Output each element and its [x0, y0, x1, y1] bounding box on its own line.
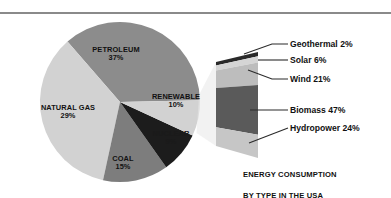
pie-label-petroleum: PETROLEUM 37%: [76, 46, 156, 63]
legend-item-biomass: Biomass 47%: [290, 106, 345, 115]
legend-item-solar: Solar 6%: [290, 56, 326, 65]
legend-label-solar: Solar 6%: [290, 55, 326, 65]
chart-title-line-2: BY TYPE IN THE USA: [243, 191, 337, 198]
chart-title: ENERGY CONSUMPTION BY TYPE IN THE USA: [243, 160, 337, 198]
legend-item-geothermal: Geothermal 2%: [290, 40, 353, 49]
pie-label-nuclear: NUCLEAR 9%: [144, 130, 198, 147]
pie-label-renewable: RENEWABLE 10%: [142, 93, 210, 110]
pie-label-petroleum-value: 37%: [76, 54, 156, 62]
leader-line-geothermal: [244, 44, 288, 54]
legend-label-biomass: Biomass 47%: [290, 105, 345, 115]
pie-label-renewable-value: 10%: [142, 101, 210, 109]
chart-canvas: PETROLEUM 37% NATURAL GAS 29% COAL 15% N…: [0, 0, 391, 198]
pie-label-nuclear-value: 9%: [144, 138, 198, 146]
pie-label-coal: COAL 15%: [95, 155, 151, 172]
pie-label-natural-gas-value: 29%: [27, 112, 109, 120]
pie-label-coal-value: 15%: [95, 163, 151, 171]
legend-label-geothermal: Geothermal 2%: [290, 39, 353, 49]
legend-label-hydropower: Hydropower 24%: [290, 123, 360, 133]
pie-label-natural-gas: NATURAL GAS 29%: [27, 104, 109, 121]
legend-label-wind: Wind 21%: [290, 74, 331, 84]
legend-item-hydropower: Hydropower 24%: [290, 124, 360, 133]
chart-title-line-1: ENERGY CONSUMPTION: [243, 170, 337, 180]
legend-item-wind: Wind 21%: [290, 75, 331, 84]
